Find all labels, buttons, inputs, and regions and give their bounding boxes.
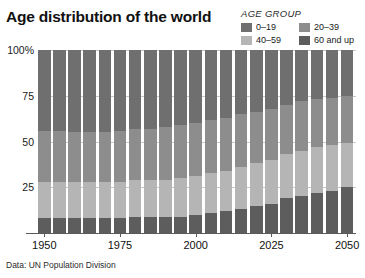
bar-column[interactable] xyxy=(174,50,189,233)
bar-segment xyxy=(144,129,157,180)
legend-item-label: 20–39 xyxy=(314,22,339,32)
bar-column[interactable] xyxy=(189,50,204,233)
bar-segment xyxy=(235,167,248,209)
bar-column[interactable] xyxy=(144,50,159,233)
source-note: Data: UN Population Division xyxy=(6,260,116,270)
bar-column[interactable] xyxy=(341,50,356,233)
bar-column[interactable] xyxy=(220,50,235,233)
legend-item[interactable]: 0–19 xyxy=(241,22,299,32)
bar-segment xyxy=(265,160,278,204)
x-axis-tick-label: 2050 xyxy=(335,239,359,251)
plot-area xyxy=(38,50,356,233)
chart-root: Age distribution of the world AGE GROUP … xyxy=(0,0,365,278)
bar-segment xyxy=(114,50,127,131)
bar-column[interactable] xyxy=(38,50,53,233)
legend-item-label: 0–19 xyxy=(256,22,276,32)
bar-segment xyxy=(159,217,172,233)
legend-swatch-icon xyxy=(241,36,252,45)
bar-segment xyxy=(220,50,233,118)
x-axis-tick-label: 2000 xyxy=(183,239,207,251)
bar-segment xyxy=(295,50,308,101)
bar-segment xyxy=(114,131,127,182)
bar-column[interactable] xyxy=(53,50,68,233)
legend-item[interactable]: 20–39 xyxy=(299,22,363,32)
bar-segment xyxy=(250,112,263,163)
bar-column[interactable] xyxy=(83,50,98,233)
bar-segment xyxy=(159,50,172,127)
bar-segment xyxy=(295,101,308,150)
y-axis-tick-label: 25 xyxy=(22,181,34,193)
x-axis-tick-mark xyxy=(44,233,45,237)
bar-segment xyxy=(129,50,142,129)
bar-segment xyxy=(189,123,202,176)
bar-column[interactable] xyxy=(235,50,250,233)
bar-segment xyxy=(341,50,354,96)
bar-segment xyxy=(280,198,293,233)
bar-series-container xyxy=(38,50,356,233)
legend-swatch-icon xyxy=(241,23,252,32)
legend-item[interactable]: 60 and up xyxy=(299,35,363,45)
bar-column[interactable] xyxy=(280,50,295,233)
bar-segment xyxy=(265,109,278,160)
x-axis-tick-mark xyxy=(347,233,348,237)
x-axis-labels: 19501975200020252050 xyxy=(38,233,356,257)
bar-segment xyxy=(311,99,324,147)
bar-column[interactable] xyxy=(159,50,174,233)
chart-legend: AGE GROUP 0–1920–3940–5960 and up xyxy=(241,8,363,45)
legend-item-label: 60 and up xyxy=(314,35,354,45)
bar-segment xyxy=(205,173,218,213)
bar-column[interactable] xyxy=(129,50,144,233)
y-axis-labels: 255075100% xyxy=(0,50,34,233)
bar-segment xyxy=(341,187,354,233)
bar-segment xyxy=(53,131,66,182)
bar-segment xyxy=(38,50,51,131)
bar-column[interactable] xyxy=(250,50,265,233)
bar-segment xyxy=(68,132,81,181)
bar-segment xyxy=(341,96,354,144)
legend-item[interactable]: 40–59 xyxy=(241,35,299,45)
bar-segment xyxy=(235,50,248,114)
bar-column[interactable] xyxy=(326,50,341,233)
bar-segment xyxy=(114,182,127,219)
bar-segment xyxy=(174,50,187,125)
bar-column[interactable] xyxy=(114,50,129,233)
bar-segment xyxy=(265,50,278,109)
bar-segment xyxy=(68,50,81,132)
legend-items: 0–1920–3940–5960 and up xyxy=(241,22,363,45)
bar-column[interactable] xyxy=(68,50,83,233)
bar-segment xyxy=(311,193,324,233)
bar-segment xyxy=(326,98,339,146)
legend-heading: AGE GROUP xyxy=(241,8,363,19)
bar-column[interactable] xyxy=(295,50,310,233)
x-axis-tick-mark xyxy=(271,233,272,237)
bar-column[interactable] xyxy=(311,50,326,233)
bar-segment xyxy=(235,114,248,167)
bar-segment xyxy=(280,105,293,154)
bar-segment xyxy=(99,218,112,233)
bar-column[interactable] xyxy=(265,50,280,233)
bar-segment xyxy=(99,182,112,219)
x-axis-tick-mark xyxy=(120,233,121,237)
bar-segment xyxy=(174,217,187,233)
bar-segment xyxy=(326,191,339,233)
bar-segment xyxy=(280,154,293,198)
bar-segment xyxy=(326,145,339,191)
bar-segment xyxy=(53,50,66,131)
bar-segment xyxy=(114,218,127,233)
bar-segment xyxy=(295,151,308,197)
bar-segment xyxy=(250,50,263,112)
bar-column[interactable] xyxy=(205,50,220,233)
bar-segment xyxy=(38,218,51,233)
y-axis-tick-label: 50 xyxy=(22,136,34,148)
x-axis-tick-mark xyxy=(196,233,197,237)
bar-segment xyxy=(129,129,142,180)
bar-segment xyxy=(280,50,293,105)
bar-column[interactable] xyxy=(99,50,114,233)
bar-segment xyxy=(129,217,142,233)
bar-segment xyxy=(311,147,324,193)
bar-segment xyxy=(189,50,202,123)
bar-segment xyxy=(235,209,248,233)
bar-segment xyxy=(265,204,278,233)
bar-segment xyxy=(99,50,112,132)
bar-segment xyxy=(341,143,354,187)
